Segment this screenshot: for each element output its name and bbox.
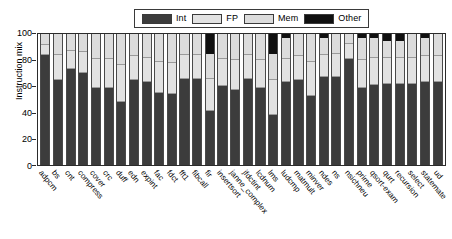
x-label-slot: ns <box>331 167 344 237</box>
stacked-bar[interactable] <box>116 34 126 165</box>
bar-segment-fp <box>180 55 188 79</box>
stacked-bar[interactable] <box>179 34 189 165</box>
bar-segment-int <box>143 82 151 165</box>
bar-slot <box>115 34 128 165</box>
bar-slot <box>52 34 65 165</box>
x-tick-label: bs <box>50 169 62 181</box>
bar-segment-int <box>282 82 290 165</box>
bar-segment-mem <box>67 34 75 51</box>
x-label-slot: jfdctint <box>242 167 255 237</box>
bar-segment-fp <box>269 80 277 115</box>
stacked-bar[interactable] <box>433 34 443 165</box>
bar-slot <box>305 34 318 165</box>
x-label-slot: edn <box>127 167 140 237</box>
stacked-bar[interactable] <box>230 34 240 165</box>
legend-swatch-other <box>304 14 334 24</box>
stacked-bar[interactable] <box>78 34 88 165</box>
bar-slot <box>216 34 229 165</box>
bar-segment-int <box>218 86 226 165</box>
bar-slot <box>153 34 166 165</box>
stacked-bar[interactable] <box>129 34 139 165</box>
stacked-bar[interactable] <box>331 34 341 165</box>
bar-segment-fp <box>168 63 176 94</box>
bar-segment-other <box>206 34 214 54</box>
y-tick-label: 20 <box>22 135 32 144</box>
stacked-bar[interactable] <box>104 34 114 165</box>
bar-segment-mem <box>320 38 328 55</box>
stacked-bar[interactable] <box>192 34 202 165</box>
x-label-slot: minver <box>305 167 318 237</box>
bar-slot <box>406 34 419 165</box>
x-label-slot: nsichneu <box>343 167 356 237</box>
stacked-bar[interactable] <box>382 34 392 165</box>
bar-segment-int <box>307 96 315 165</box>
bar-segment-mem <box>231 34 239 60</box>
stacked-bar[interactable] <box>268 34 278 165</box>
stacked-bar[interactable] <box>40 34 50 165</box>
bar-segment-fp <box>155 62 163 93</box>
x-label-slot: lms <box>267 167 280 237</box>
x-tick-label: lms <box>266 169 280 184</box>
stacked-bar[interactable] <box>420 34 430 165</box>
stacked-bar[interactable] <box>167 34 177 165</box>
bar-slot <box>128 34 141 165</box>
legend-label: FP <box>226 14 238 23</box>
bar-segment-int <box>345 59 353 165</box>
stacked-bar[interactable] <box>357 34 367 165</box>
bar-segment-int <box>256 88 264 165</box>
bar-segment-int <box>155 93 163 165</box>
chart-legend: IntFPMemOther <box>134 9 369 28</box>
legend-swatch-fp <box>192 14 222 24</box>
bar-segment-int <box>105 88 113 165</box>
bar-segment-int <box>294 80 302 165</box>
stacked-bar[interactable] <box>293 34 303 165</box>
bar-segment-int <box>396 84 404 165</box>
stacked-bar[interactable] <box>205 34 215 165</box>
bar-segment-mem <box>54 34 62 55</box>
bar-slot <box>242 34 255 165</box>
stacked-bar[interactable] <box>91 34 101 165</box>
stacked-bar[interactable] <box>344 34 354 165</box>
stacked-bar[interactable] <box>243 34 253 165</box>
x-label-slot: fft1 <box>178 167 191 237</box>
bar-segment-mem <box>193 34 201 55</box>
bar-segment-mem <box>269 54 277 80</box>
bar-segment-fp <box>206 79 214 112</box>
stacked-bar[interactable] <box>306 34 316 165</box>
stacked-bar[interactable] <box>319 34 329 165</box>
bar-slot <box>381 34 394 165</box>
stacked-bar[interactable] <box>217 34 227 165</box>
bar-slot <box>140 34 153 165</box>
y-tick-mark <box>32 33 36 34</box>
stacked-bar[interactable] <box>281 34 291 165</box>
stacked-bar[interactable] <box>407 34 417 165</box>
bar-segment-int <box>358 88 366 165</box>
stacked-bar[interactable] <box>154 34 164 165</box>
bar-slot <box>317 34 330 165</box>
x-label-slot: bs <box>51 167 64 237</box>
bar-segment-mem <box>180 34 188 55</box>
x-label-slot: fac <box>152 167 165 237</box>
bar-segment-mem <box>383 41 391 58</box>
stacked-bar[interactable] <box>53 34 63 165</box>
stacked-bar[interactable] <box>142 34 152 165</box>
x-label-slot: adpcm <box>38 167 51 237</box>
bar-segment-int <box>168 94 176 165</box>
bar-segment-fp <box>105 59 113 88</box>
x-label-slot: ud <box>432 167 445 237</box>
x-tick-label: duff <box>114 169 129 184</box>
bar-segment-fp <box>244 55 252 79</box>
stacked-bar[interactable] <box>66 34 76 165</box>
stacked-bar[interactable] <box>255 34 265 165</box>
bar-segment-int <box>130 80 138 165</box>
bar-segment-mem <box>155 34 163 62</box>
bar-slot <box>102 34 115 165</box>
bar-slot <box>64 34 77 165</box>
bar-segment-mem <box>244 34 252 55</box>
x-label-slot: insertsort <box>216 167 229 237</box>
y-tick-label: 0 <box>27 162 32 171</box>
stacked-bar[interactable] <box>395 34 405 165</box>
stacked-bar[interactable] <box>369 34 379 165</box>
bar-segment-fp <box>294 56 302 80</box>
bar-slot <box>77 34 90 165</box>
